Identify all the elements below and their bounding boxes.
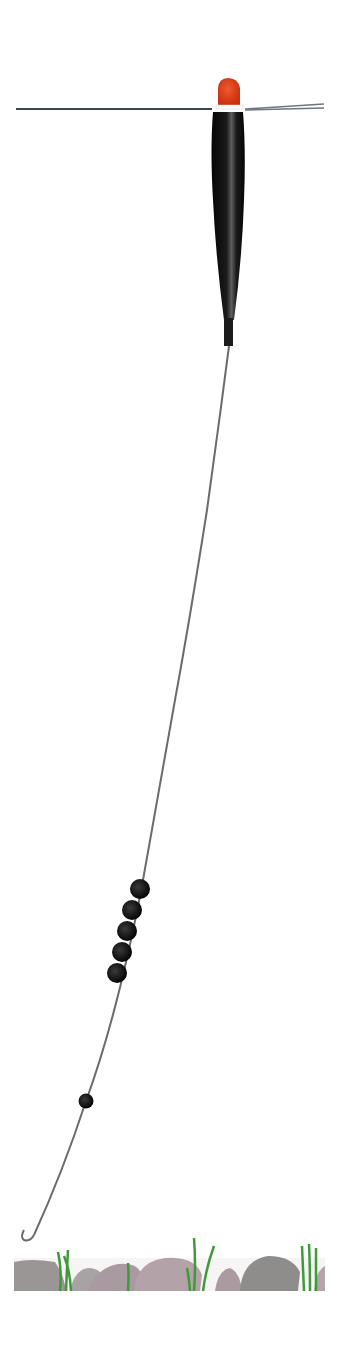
float-body bbox=[212, 112, 245, 320]
split-shot bbox=[117, 921, 137, 941]
bulk-shot-group bbox=[107, 879, 150, 983]
float-stem bbox=[224, 318, 233, 346]
water-surface-right bbox=[245, 104, 324, 110]
split-shot bbox=[107, 963, 127, 983]
float-collar bbox=[216, 105, 243, 109]
hook bbox=[22, 1230, 34, 1240]
float-rig-diagram bbox=[0, 0, 356, 1368]
main-line bbox=[34, 346, 229, 1235]
float-tip bbox=[218, 78, 240, 106]
split-shot bbox=[130, 879, 150, 899]
split-shot bbox=[112, 942, 132, 962]
lakebed bbox=[14, 1238, 325, 1291]
dropper-shot bbox=[79, 1094, 94, 1109]
split-shot bbox=[122, 900, 142, 920]
float bbox=[212, 78, 245, 346]
